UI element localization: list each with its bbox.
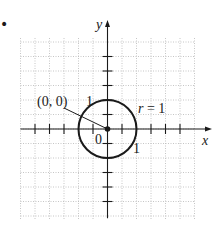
radius-equals: = 1 xyxy=(143,101,165,116)
center-point xyxy=(105,126,111,132)
center-label: (0, 0) xyxy=(37,94,68,110)
axes xyxy=(21,23,210,218)
y-tick-label-1: 1 xyxy=(86,94,93,109)
circle-diagram: y x (0, 0) 1 1 0 r = 1 xyxy=(0,0,219,227)
y-axis-label: y xyxy=(94,17,103,32)
radius-label: r = 1 xyxy=(138,101,165,116)
x-axis-arrowhead xyxy=(205,127,212,132)
x-axis-label: x xyxy=(201,133,209,148)
y-axis-arrowhead xyxy=(105,20,110,27)
origin-label: 0 xyxy=(95,132,102,147)
x-tick-label-1: 1 xyxy=(133,141,140,156)
